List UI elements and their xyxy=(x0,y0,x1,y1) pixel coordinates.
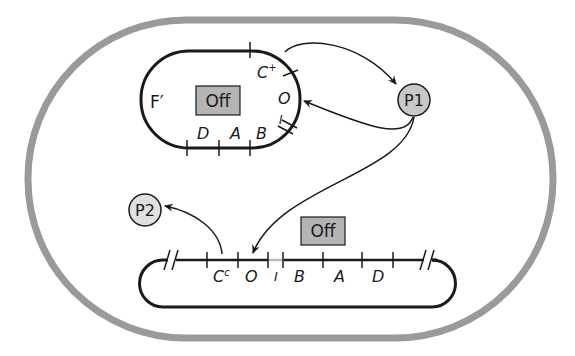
protein-p1: P1 xyxy=(398,84,430,116)
svg-text:P2: P2 xyxy=(135,201,155,220)
chromosome-gene-i: I xyxy=(274,269,278,284)
cell-membrane xyxy=(28,20,553,338)
plasmid-off-label: Off xyxy=(205,91,231,111)
protein-p2: P2 xyxy=(129,194,161,226)
chromosome-gene-a: A xyxy=(333,267,345,286)
f-prime-plasmid: F′ Off C+ O I B A D xyxy=(141,42,300,156)
chromosome-gene-d: D xyxy=(372,267,384,286)
bacterial-chromosome: Cc O I B A D Off xyxy=(140,217,456,307)
arrow-p1-to-plasmid-o xyxy=(304,101,413,129)
plasmid-name: F′ xyxy=(150,92,164,112)
chromosome-gene-o: O xyxy=(245,267,258,286)
plasmid-gene-o: O xyxy=(278,89,291,108)
svg-text:P1: P1 xyxy=(404,91,424,110)
operon-diagram: F′ Off C+ O I B A D P1 P2 xyxy=(0,0,575,356)
plasmid-gene-i: I xyxy=(279,113,283,127)
arrow-c-to-p1 xyxy=(285,43,396,84)
chromosome-off-label: Off xyxy=(310,221,336,241)
plasmid-gene-d: D xyxy=(197,124,209,143)
plasmid-gene-a: A xyxy=(229,124,241,143)
arrow-cc-to-p2 xyxy=(165,206,222,254)
chromosome-gene-c: Cc xyxy=(213,267,230,286)
plasmid-gene-c: C+ xyxy=(257,62,277,82)
plasmid-gene-b: B xyxy=(256,124,267,143)
chromosome-gene-b: B xyxy=(294,267,305,286)
